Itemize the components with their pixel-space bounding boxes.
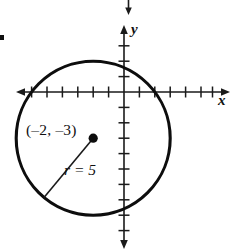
y-axis-label: y [131,22,138,37]
x-axis-label: x [218,93,226,108]
page-speck-mark [0,35,4,40]
center-point-label: (–2, –3) [26,122,77,138]
stray-down-arrow-artifact [125,0,132,15]
center-point-marker [89,134,98,143]
circle-graph-figure: x y (–2, –3) r = 5 [0,0,237,251]
radius-label: r = 5 [64,162,96,178]
x-axis [16,88,230,96]
